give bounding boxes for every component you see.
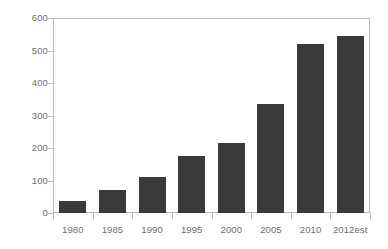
bar-slot bbox=[132, 18, 172, 213]
y-axis-tick-label: 100 bbox=[0, 176, 48, 186]
bar-slot bbox=[330, 18, 370, 213]
x-axis-tick-label: 2010 bbox=[291, 224, 331, 240]
x-axis-tick-mark bbox=[132, 213, 133, 219]
x-axis-tick-label: 1985 bbox=[93, 224, 133, 240]
bar-chart: 0100200300400500600 19801985199019952000… bbox=[0, 0, 388, 249]
bar-slot bbox=[291, 18, 331, 213]
x-axis-tick-label: 1995 bbox=[172, 224, 212, 240]
bar-slot bbox=[53, 18, 93, 213]
x-axis-tick-mark bbox=[53, 213, 54, 219]
x-axis-tick-label: 2012est bbox=[330, 224, 370, 240]
bar bbox=[337, 36, 364, 213]
bar bbox=[257, 104, 284, 213]
bars-layer bbox=[53, 18, 370, 213]
bar bbox=[139, 177, 166, 213]
y-axis-tick-label: 500 bbox=[0, 46, 48, 56]
x-axis-tick-label: 2000 bbox=[212, 224, 252, 240]
x-axis-labels: 19801985199019952000200520102012est bbox=[53, 224, 370, 240]
y-axis-tick-label: 300 bbox=[0, 111, 48, 121]
x-axis-tick-mark bbox=[93, 213, 94, 219]
bar-slot bbox=[93, 18, 133, 213]
x-axis-tick-mark bbox=[291, 213, 292, 219]
y-axis-tick-label: 600 bbox=[0, 13, 48, 23]
bar bbox=[297, 44, 324, 213]
x-axis-tick-mark bbox=[172, 213, 173, 219]
x-axis-tick-mark bbox=[251, 213, 252, 219]
y-axis-tick-mark bbox=[48, 213, 54, 214]
bar bbox=[99, 190, 126, 213]
y-axis-tick-label: 400 bbox=[0, 78, 48, 88]
bar-slot bbox=[172, 18, 212, 213]
x-axis-tick-label: 1980 bbox=[53, 224, 93, 240]
x-axis-tick-mark bbox=[330, 213, 331, 219]
bar-slot bbox=[212, 18, 252, 213]
bar-slot bbox=[251, 18, 291, 213]
y-axis-tick-label: 200 bbox=[0, 143, 48, 153]
x-axis-tick-label: 2005 bbox=[251, 224, 291, 240]
y-axis-labels: 0100200300400500600 bbox=[0, 0, 48, 249]
x-axis-tick-mark bbox=[212, 213, 213, 219]
y-axis-tick-label: 0 bbox=[0, 208, 48, 218]
x-axis-tick-mark bbox=[370, 213, 371, 219]
bar bbox=[59, 201, 86, 213]
x-axis-tick-label: 1990 bbox=[132, 224, 172, 240]
bar bbox=[178, 156, 205, 213]
bar bbox=[218, 143, 245, 213]
